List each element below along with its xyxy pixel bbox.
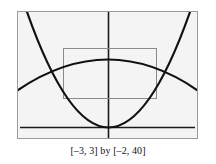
inscribed-rectangle — [64, 49, 157, 99]
viewing-window-caption: [–3, 3] by [–2, 40] — [0, 144, 216, 157]
downward-arch-curve — [18, 60, 197, 91]
viewing-window-figure: [–3, 3] by [–2, 40] — [0, 0, 216, 164]
plot-frame — [17, 11, 198, 139]
plot-canvas — [18, 12, 197, 138]
